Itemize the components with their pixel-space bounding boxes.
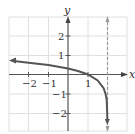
graph: x −2 −1 1 y 2 1 −1 −2 bbox=[0, 0, 135, 134]
y-tick-label: 2 bbox=[58, 31, 64, 42]
y-tick-label: 1 bbox=[58, 50, 64, 61]
x-tick-label: −1 bbox=[42, 78, 57, 89]
x-axis-label: x bbox=[129, 68, 135, 81]
x-tick-label: −2 bbox=[22, 78, 37, 89]
y-tick-label: −2 bbox=[52, 108, 67, 119]
y-axis-label: y bbox=[63, 4, 71, 17]
x-tick-label: 1 bbox=[85, 78, 91, 89]
x-axis: x −2 −1 1 bbox=[9, 68, 135, 89]
y-tick-label: −1 bbox=[52, 89, 67, 100]
curve-arrow-down-icon bbox=[105, 119, 110, 125]
curve-arrow-left-icon bbox=[9, 58, 16, 64]
